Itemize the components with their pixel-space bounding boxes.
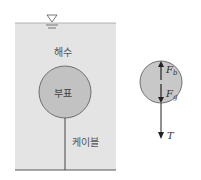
cable-label: 케이블 [72, 134, 99, 149]
tension-arrow [158, 103, 164, 139]
tension-label: T [167, 130, 174, 141]
buoy-label: 부표 [54, 85, 72, 100]
seawater-label: 해수 [54, 44, 72, 59]
buoyancy-force-label: Fb [166, 64, 177, 77]
gravity-force-label: Fg [166, 88, 177, 101]
